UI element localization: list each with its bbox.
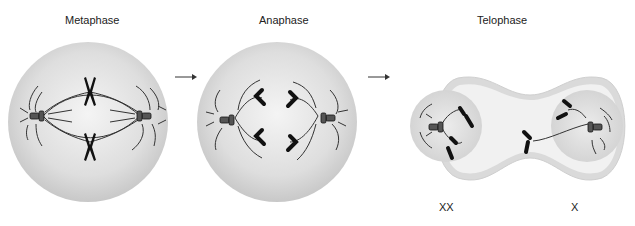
arrow-icon: [175, 74, 197, 80]
anaphase-cell: [197, 42, 357, 202]
telophase-cell: [410, 77, 625, 180]
meiosis-diagram: [0, 0, 635, 226]
metaphase-cell: [8, 42, 168, 202]
arrow-icon: [368, 74, 390, 80]
daughter-nucleus-right: [551, 90, 623, 162]
